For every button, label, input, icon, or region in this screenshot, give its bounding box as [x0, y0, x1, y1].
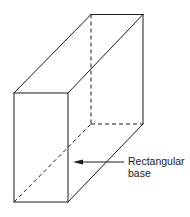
annotation-label-line2: base — [128, 168, 151, 179]
annotation-label-line1: Rectangular — [128, 156, 185, 167]
arrowhead-icon — [73, 160, 83, 165]
front-face — [14, 93, 68, 202]
prism-diagram — [0, 0, 190, 217]
annotation-arrow — [73, 160, 124, 165]
